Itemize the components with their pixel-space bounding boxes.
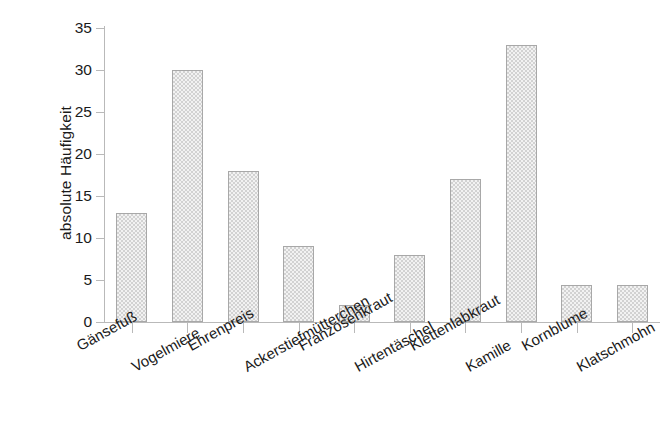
y-tick-label: 35: [34, 20, 92, 36]
y-tick-label-wrap: 20: [30, 154, 92, 155]
plot-area: [104, 20, 660, 322]
bar: [283, 246, 314, 322]
bar: [116, 213, 147, 322]
y-tick-label-wrap: 5: [30, 280, 92, 281]
bar: [228, 171, 259, 322]
x-axis-label: Kamille: [463, 337, 513, 374]
y-tick-label-wrap: 15: [30, 196, 92, 197]
bar-chart: absolute Häufigkeit 05101520253035 Gänse…: [0, 0, 670, 435]
y-tick-label-wrap: 35: [30, 28, 92, 29]
y-tick-label: 25: [34, 104, 92, 120]
bar: [506, 45, 537, 322]
y-tick-label: 30: [34, 62, 92, 78]
bar: [172, 70, 203, 322]
y-tick-label: 15: [34, 188, 92, 204]
bar: [617, 285, 648, 322]
y-tick-label: 5: [34, 272, 92, 288]
y-tick-label: 10: [34, 230, 92, 246]
y-tick-label-wrap: 0: [30, 322, 92, 323]
y-tick-label-wrap: 25: [30, 112, 92, 113]
y-axis-title: absolute Häufigkeit: [44, 8, 88, 338]
x-axis-label: Klatschmohn: [574, 319, 657, 374]
y-tick-label-wrap: 10: [30, 238, 92, 239]
y-tick-label: 20: [34, 146, 92, 162]
x-tick-mark: [521, 323, 522, 333]
bar: [394, 255, 425, 322]
y-tick-label: 0: [34, 314, 92, 330]
y-tick-label-wrap: 30: [30, 70, 92, 71]
